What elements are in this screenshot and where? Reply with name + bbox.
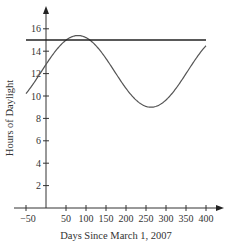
y-tick-label: 10 bbox=[31, 91, 41, 102]
x-tick-label: 250 bbox=[139, 213, 154, 224]
x-tick-label: −50 bbox=[20, 213, 36, 224]
x-tick-label: 350 bbox=[179, 213, 194, 224]
y-tick-label: 8 bbox=[36, 113, 41, 124]
x-tick-label: 400 bbox=[199, 213, 214, 224]
chart: −5050100150200250300350400246810121416Da… bbox=[0, 0, 229, 245]
daylight-curve bbox=[26, 36, 206, 108]
y-tick-label: 4 bbox=[36, 158, 41, 169]
y-tick-label: 16 bbox=[31, 23, 41, 34]
x-axis-title: Days Since March 1, 2007 bbox=[60, 230, 172, 241]
x-tick-label: 100 bbox=[79, 213, 94, 224]
x-tick-label: 50 bbox=[61, 213, 71, 224]
y-axis-title: Hours of Daylight bbox=[4, 80, 15, 156]
y-tick-label: 2 bbox=[36, 180, 41, 191]
x-axis-arrow-icon bbox=[216, 205, 224, 211]
y-tick-label: 6 bbox=[36, 135, 41, 146]
x-tick-label: 150 bbox=[99, 213, 114, 224]
x-tick-label: 200 bbox=[119, 213, 134, 224]
plot-area: −5050100150200250300350400246810121416Da… bbox=[4, 6, 224, 241]
x-tick-label: 300 bbox=[159, 213, 174, 224]
y-tick-label: 14 bbox=[31, 46, 41, 57]
y-axis-arrow-icon bbox=[43, 6, 49, 14]
